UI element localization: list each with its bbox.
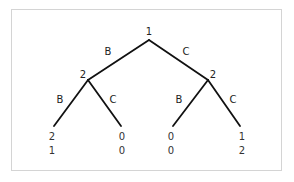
edge-root-c xyxy=(149,40,208,80)
edge-label-left-b: B xyxy=(57,95,64,105)
leaf3-payoff-player2: 0 xyxy=(168,146,174,156)
leaf2-payoff-player2: 0 xyxy=(119,146,125,156)
leaf4-payoff-player2: 2 xyxy=(239,146,245,156)
edge-label-right-b: B xyxy=(176,95,183,105)
leaf3-payoff-player1: 0 xyxy=(168,132,174,142)
leaf1-payoff-player2: 1 xyxy=(49,146,55,156)
leaf4-payoff-player1: 1 xyxy=(239,132,245,142)
right-node-player-label: 2 xyxy=(210,70,216,80)
left-node-player-label: 2 xyxy=(80,70,86,80)
edge-label-root-b: B xyxy=(105,47,112,57)
edge-label-root-c: C xyxy=(183,47,190,57)
edge-label-left-c: C xyxy=(110,95,117,105)
leaf2-payoff-player1: 0 xyxy=(119,132,125,142)
edge-root-b xyxy=(88,40,149,80)
root-player-label: 1 xyxy=(146,27,152,37)
leaf1-payoff-player1: 2 xyxy=(49,132,55,142)
edge-label-right-c: C xyxy=(230,95,237,105)
